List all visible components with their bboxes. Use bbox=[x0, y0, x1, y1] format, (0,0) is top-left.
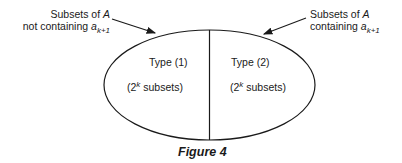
region-2-type: Type (2) bbox=[231, 56, 270, 68]
right-arrow bbox=[264, 18, 306, 34]
right-annotation: Subsets of A containing ak+1 bbox=[310, 8, 380, 34]
element-subscript: k+1 bbox=[367, 26, 380, 35]
region-1-count: (2k subsets) bbox=[127, 81, 183, 95]
count-exponent: k bbox=[136, 80, 140, 89]
left-annotation-line2: not containing bbox=[23, 20, 91, 32]
region-2-count: (2k subsets) bbox=[230, 81, 286, 95]
element-variable: a bbox=[361, 20, 367, 32]
count-base: (2 bbox=[127, 81, 136, 93]
count-label: subsets) bbox=[140, 81, 183, 93]
right-annotation-line1: Subsets of bbox=[310, 8, 363, 20]
count-exponent: k bbox=[239, 80, 243, 89]
left-annotation: Subsets of A not containing ak+1 bbox=[14, 8, 110, 34]
count-base: (2 bbox=[230, 81, 239, 93]
set-variable: A bbox=[103, 8, 110, 20]
element-subscript: k+1 bbox=[97, 26, 110, 35]
set-variable: A bbox=[363, 8, 370, 20]
element-variable: a bbox=[91, 20, 97, 32]
left-arrow bbox=[112, 19, 155, 33]
figure-caption: Figure 4 bbox=[178, 145, 227, 159]
right-annotation-line2: containing bbox=[310, 20, 361, 32]
count-label: subsets) bbox=[243, 81, 286, 93]
region-1-type: Type (1) bbox=[149, 56, 188, 68]
left-annotation-line1: Subsets of bbox=[50, 8, 103, 20]
